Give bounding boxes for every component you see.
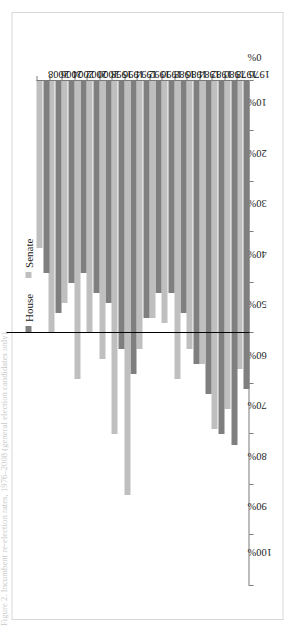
bar-house-1986 [180, 81, 186, 313]
value-axis-tick-label: 60% [247, 350, 266, 361]
bar-senate-1986 [174, 81, 180, 379]
value-axis-tick-label: 20% [247, 148, 266, 159]
legend-item-senate: Senate [22, 239, 34, 278]
bar-senate-1978 [224, 81, 230, 409]
chart-page: Figure 2. Incumbent re-election rates, 1… [0, 0, 295, 632]
chart-legend: House Senate [22, 239, 34, 332]
value-axis-tick-label: 100% [247, 547, 272, 558]
reference-line-50-percent [6, 332, 249, 334]
bar-senate-1982 [199, 81, 205, 364]
legend-label-senate: Senate [22, 239, 34, 268]
bar-house-1998 [105, 81, 111, 303]
bar-senate-2006 [48, 81, 54, 334]
value-axis-tick [249, 333, 253, 334]
bar-house-2008 [43, 81, 49, 273]
value-axis-tick [249, 131, 253, 132]
bar-house-1990 [155, 81, 161, 293]
value-axis-tick-label: 70% [247, 400, 266, 411]
bar-house-2006 [55, 81, 61, 313]
bar-house-2004 [68, 81, 74, 283]
value-axis-tick [249, 484, 253, 485]
value-axis-tick [249, 535, 253, 536]
bar-senate-1980 [211, 81, 217, 429]
value-axis-tick-label: 50% [247, 299, 266, 310]
bar-senate-1994 [124, 81, 130, 495]
bar-senate-2004 [61, 81, 67, 303]
bar-house-1994 [130, 81, 136, 374]
bar-senate-1988 [161, 81, 167, 323]
value-axis-tick-label: 0% [247, 52, 261, 63]
value-axis-tick [249, 585, 253, 586]
value-axis-tick-label: 30% [247, 198, 266, 209]
bar-house-1988 [168, 81, 174, 293]
bar-house-1996 [118, 81, 124, 349]
bar-house-1984 [193, 81, 199, 364]
value-axis-tick-label: 90% [247, 501, 266, 512]
square-marker-senate-icon [25, 272, 31, 278]
value-axis-tick-label: 80% [247, 451, 266, 462]
bar-house-2000 [93, 81, 99, 293]
bar-senate-1984 [186, 81, 192, 349]
bar-house-1978 [231, 81, 237, 445]
bar-house-1982 [205, 81, 211, 394]
plot-area: 100%90%80%70%60%50%40%30%20%10%0%1976197… [36, 81, 249, 586]
bar-house-1992 [143, 81, 149, 318]
rotated-figure-canvas: Figure 2. Incumbent re-election rates, 1… [0, 0, 295, 632]
value-axis-tick [249, 282, 253, 283]
bar-senate-2002 [74, 81, 80, 379]
bar-senate-2000 [86, 81, 92, 334]
figure-caption: Figure 2. Incumbent re-election rates, 1… [0, 206, 8, 626]
legend-item-house: House [22, 294, 34, 332]
bar-senate-1990 [149, 81, 155, 318]
category-axis-label: 2008 [48, 69, 69, 80]
value-axis-tick-label: 10% [247, 97, 266, 108]
value-axis-tick [249, 383, 253, 384]
bar-house-1976 [243, 81, 249, 389]
legend-label-house: House [22, 294, 34, 322]
value-axis-tick [249, 232, 253, 233]
value-axis-tick [249, 434, 253, 435]
bar-senate-1992 [136, 81, 142, 349]
bar-senate-2008 [36, 81, 42, 248]
value-axis-tick-label: 40% [247, 249, 266, 260]
value-axis-tick [249, 181, 253, 182]
bar-house-2002 [80, 81, 86, 273]
bar-senate-1996 [111, 81, 117, 435]
value-axis-tick [249, 80, 253, 81]
bar-senate-1998 [99, 81, 105, 359]
bar-house-1980 [218, 81, 224, 435]
bar-senate-1976 [236, 81, 242, 369]
